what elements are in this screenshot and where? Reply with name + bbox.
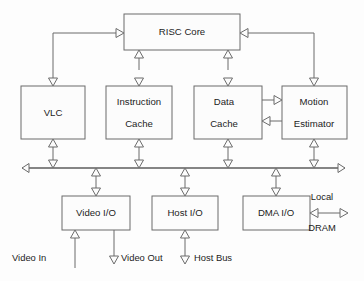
block-data-cache[interactable]: Data Cache [194,86,262,139]
block-host-io[interactable]: Host I/O [152,196,218,230]
arrowhead-into-video-io-top [92,188,101,196]
label-local: Local [311,191,333,202]
connection-risc-core-instruction-cache [135,50,144,86]
block-instruction-cache-shape [106,86,172,139]
block-host-io-label: Host I/O [167,207,202,218]
block-vlc[interactable]: VLC [21,86,85,139]
block-dma-io-label: DMA I/O [258,207,294,218]
arrowhead-into-host-io-top [181,188,190,196]
arrowhead-into-risc-right [240,29,248,38]
block-vlc-label: VLC [44,107,63,118]
connection-risc-core-vlc [49,29,125,87]
block-data-cache-shape [194,86,262,139]
block-motion-estimator[interactable]: Motion Estimator [282,86,347,139]
arrowhead-dcache-into-bus [224,160,233,168]
block-motion-estimator-label-line1: Motion [300,96,329,107]
connection-vlc-bus [49,139,58,168]
label-video-out: Video Out [121,252,163,263]
block-motion-estimator-label-line2: Estimator [294,118,335,129]
connection-risc-core-motion-estimator [240,29,319,87]
arrowhead-host-bus-down [181,256,190,264]
connection-instruction-cache-bus [135,139,144,168]
connection-video-in [71,230,80,268]
block-instruction-cache-label-line1: Instruction [117,96,161,107]
arrowhead-into-risc-bottom-left [135,50,144,58]
block-instruction-cache[interactable]: Instruction Cache [106,86,172,139]
arrowhead-video-out [110,256,119,264]
block-dma-io[interactable]: DMA I/O [243,196,310,230]
arrowhead-into-dma-io-top [272,188,281,196]
arrowhead-into-dcache-top [224,78,233,86]
arrowhead-into-dcache-bottom [224,139,233,147]
block-diagram-svg: RISC Core VLC Instruction Cache Data Cac… [0,0,364,281]
arrowhead-to-dram [340,209,348,218]
arrowhead-icache-into-bus [135,160,144,168]
block-diagram-canvas: RISC Core VLC Instruction Cache Data Cac… [0,0,364,281]
arrowhead-into-motion-bottom [310,139,319,147]
arrowhead-into-dma-io-right [310,209,318,218]
arrowhead-into-vlc-bottom [49,139,58,147]
arrowhead-host-io-into-bus [181,168,190,176]
arrowhead-into-video-io-bottom [71,230,80,238]
label-video-in: Video In [12,252,46,263]
connection-data-cache-to-motion-estimator [262,96,282,105]
block-motion-estimator-shape [282,86,347,139]
block-risc-core-label: RISC Core [159,26,205,37]
connection-dma-io-local-dram [310,209,348,218]
block-data-cache-label-line1: Data [214,96,235,107]
arrowhead-into-dcache-right [262,117,270,126]
connection-data-cache-bus [224,139,233,168]
arrowhead-into-motion-top [310,78,319,86]
arrowhead-vlc-into-bus [49,160,58,168]
connection-bus-host-io [181,168,190,196]
arrowhead-bus-left-end [22,164,29,173]
label-dram: DRAM [308,222,336,233]
arrowhead-into-risc-left [116,29,124,38]
arrowhead-video-io-into-bus [92,168,101,176]
block-video-io[interactable]: Video I/O [62,196,130,230]
connection-risc-core-data-cache [224,50,233,86]
arrowhead-bus-right-end [338,164,345,173]
arrowhead-dma-io-into-bus [272,168,281,176]
arrowhead-into-icache-bottom [135,139,144,147]
arrowhead-motion-into-bus [310,160,319,168]
connection-motion-estimator-bus [310,139,319,168]
connection-video-out [110,230,119,264]
label-host-bus: Host Bus [194,252,232,263]
arrowhead-into-motion-left [274,96,282,105]
block-instruction-cache-label-line2: Cache [125,118,153,129]
connection-motion-estimator-to-data-cache [262,117,282,126]
arrowhead-into-host-io-bottom [181,230,190,238]
arrowhead-into-vlc-top [49,78,58,86]
arrowhead-into-risc-bottom-right [224,50,233,58]
connection-bus-video-io [92,168,101,196]
connection-host-bus [181,230,190,264]
block-risc-core[interactable]: RISC Core [124,14,240,50]
arrowhead-into-icache-top [135,78,144,86]
block-video-io-label: Video I/O [76,207,116,218]
block-data-cache-label-line2: Cache [210,118,238,129]
connection-bus-dma-io [272,168,281,196]
